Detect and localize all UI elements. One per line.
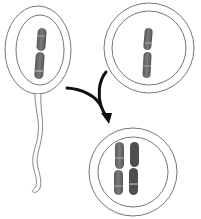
fertilization-arrow <box>67 72 112 124</box>
zygote-chromosome-1 <box>114 142 124 195</box>
sperm-cell <box>5 6 71 192</box>
egg-cell <box>104 3 194 93</box>
egg-chromosome <box>142 28 153 78</box>
fertilization-diagram: sperm cell egg cell zygote fertilization… <box>0 0 201 219</box>
zygote-cell <box>89 128 177 216</box>
zygote-chromosome-2 <box>129 142 139 195</box>
diagram-canvas <box>0 0 201 219</box>
sperm-tail <box>32 94 42 192</box>
sperm-chromosome <box>34 28 47 80</box>
sperm-head-outer <box>5 6 71 94</box>
